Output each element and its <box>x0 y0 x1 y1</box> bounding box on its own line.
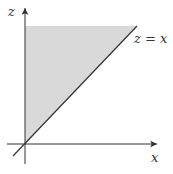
x-axis-label: x <box>151 150 159 165</box>
z-axis-label: z <box>7 4 15 19</box>
line-label: z = x <box>133 31 168 46</box>
diagram-canvas: z x z = x <box>0 0 173 174</box>
